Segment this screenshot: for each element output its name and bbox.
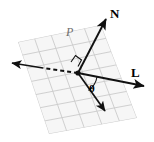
geometry-diagram: P L N θ xyxy=(0,0,154,142)
plane-grid xyxy=(18,25,137,134)
figure-container: P L N θ xyxy=(0,0,154,142)
angle-label: θ xyxy=(89,82,95,94)
light-vector-label: L xyxy=(131,65,140,80)
normal-vector-label: N xyxy=(110,6,120,21)
plane-label: P xyxy=(65,25,74,39)
origin-point xyxy=(75,70,80,75)
